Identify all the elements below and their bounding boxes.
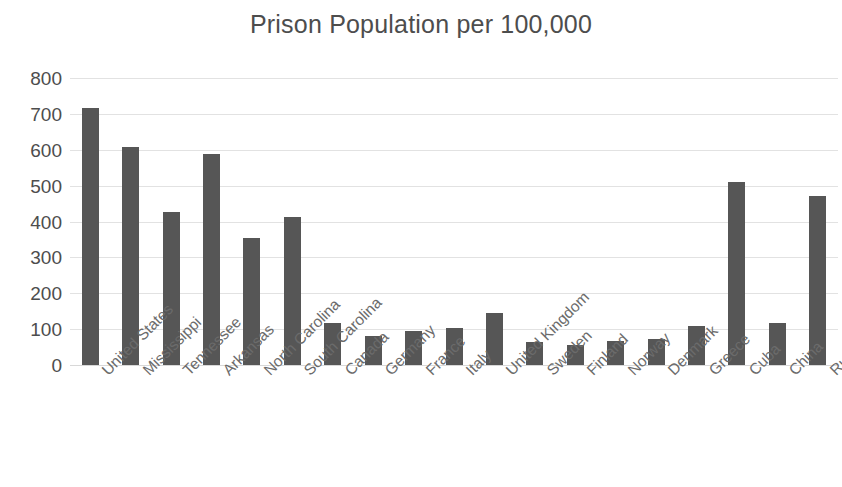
x-axis-tick-label: North Carolina [261, 367, 273, 379]
y-axis-tick-label: 800 [0, 69, 62, 88]
y-axis-tick-label: 700 [0, 104, 62, 123]
y-axis-tick-label: 200 [0, 284, 62, 303]
y-axis-tick-label: 100 [0, 320, 62, 339]
x-axis-tick-label: Mississippi [140, 367, 152, 379]
x-axis-tick-label: Denmark [665, 367, 677, 379]
y-axis-tick-label: 0 [0, 356, 62, 375]
y-axis-tick-label: 300 [0, 248, 62, 267]
bar-chart: Prison Population per 100,000 8007006005… [0, 0, 842, 487]
x-axis-tick-label: United States [99, 367, 111, 379]
x-axis-tick-label: Arkansas [220, 367, 232, 379]
x-axis-tick-label: Norway [625, 367, 637, 379]
x-axis-tick-label: Cuba [746, 367, 758, 379]
x-axis-tick-label: Greece [706, 367, 718, 379]
y-axis: 8007006005004003002001000 [0, 78, 62, 365]
bar [82, 108, 99, 365]
x-axis-tick-label: Tennessee [180, 367, 192, 379]
x-axis-tick-label: Finland [584, 367, 596, 379]
x-axis-tick-label: France [423, 367, 435, 379]
x-axis-tick-label: South Carolina [301, 367, 313, 379]
y-axis-tick-label: 600 [0, 140, 62, 159]
x-axis-tick-label: Italy [463, 367, 475, 379]
x-axis: United StatesMississippiTennesseeArkansa… [70, 367, 838, 487]
x-axis-tick-label: Russia [827, 367, 839, 379]
y-axis-tick-label: 400 [0, 212, 62, 231]
y-axis-tick-label: 500 [0, 176, 62, 195]
x-axis-tick-label: Germany [382, 367, 394, 379]
x-axis-tick-label: China [786, 367, 798, 379]
x-axis-tick-label: Sweden [544, 367, 556, 379]
chart-title: Prison Population per 100,000 [0, 10, 842, 39]
x-axis-tick-label: United Kingdom [503, 367, 515, 379]
x-axis-tick-label: Canada [342, 367, 354, 379]
